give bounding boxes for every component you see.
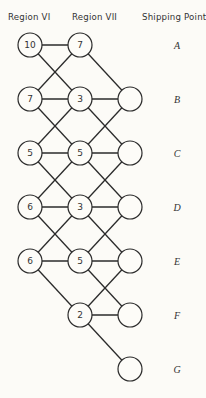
node-ship-f — [118, 303, 142, 327]
node-vii-a-label: 7 — [77, 40, 83, 50]
node-vi-e-label: 6 — [27, 256, 33, 266]
row-label-c: C — [174, 148, 181, 159]
row-label-f: F — [173, 310, 181, 321]
node-vi-d-label: 6 — [27, 202, 33, 212]
row-label-d: D — [172, 202, 181, 213]
row-label-e: E — [173, 256, 180, 267]
node-ship-d — [118, 195, 142, 219]
node-ship-e — [118, 249, 142, 273]
node-vi-b-label: 7 — [27, 94, 33, 104]
node-vii-b-label: 3 — [77, 94, 83, 104]
row-label-g: G — [173, 364, 180, 375]
node-ship-g — [118, 357, 142, 381]
node-ship-b — [118, 87, 142, 111]
row-label-a: A — [173, 40, 181, 51]
node-vi-a-label: 10 — [24, 40, 36, 50]
node-ship-c — [118, 141, 142, 165]
node-vii-f-label: 2 — [77, 310, 83, 320]
node-vii-c-label: 5 — [77, 148, 83, 158]
node-vii-e-label: 5 — [77, 256, 83, 266]
node-vi-c-label: 5 — [27, 148, 33, 158]
node-vii-d-label: 3 — [77, 202, 83, 212]
network-diagram: 10 7 5 6 6 7 3 5 3 5 2 A B C D E F G — [0, 0, 206, 398]
row-label-b: B — [174, 94, 180, 105]
